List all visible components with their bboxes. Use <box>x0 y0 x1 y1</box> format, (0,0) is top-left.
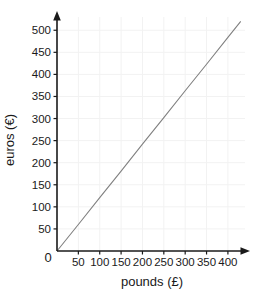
tick-label-y-50: 50 <box>38 223 51 235</box>
tick-label-x-100: 100 <box>90 256 109 268</box>
tick-label-x-200: 200 <box>133 256 152 268</box>
tick-label-y-350: 350 <box>32 90 51 102</box>
tick-label-x-150: 150 <box>111 256 130 268</box>
pounds-tick-labels: 50100150200250300350400 <box>72 256 238 268</box>
pounds-axis-arrowhead <box>241 247 251 255</box>
tick-label-y-200: 200 <box>32 157 51 169</box>
euros-axis-arrowhead <box>53 11 61 21</box>
tick-label-x-300: 300 <box>176 256 195 268</box>
tick-label-y-400: 400 <box>32 68 51 80</box>
euros-axis-title: euros (€) <box>2 114 17 166</box>
chart-canvas: 50100150200250300350400450500 5010015020… <box>0 0 258 297</box>
pounds-axis-title: pounds (£) <box>121 274 183 289</box>
origin-label: 0 <box>44 250 51 265</box>
tick-label-y-150: 150 <box>32 179 51 191</box>
tick-label-x-400: 400 <box>218 256 237 268</box>
euros-tick-labels: 50100150200250300350400450500 <box>32 24 51 235</box>
tick-label-y-500: 500 <box>32 24 51 36</box>
tick-label-x-350: 350 <box>197 256 216 268</box>
tick-label-y-450: 450 <box>32 46 51 58</box>
tick-label-x-50: 50 <box>72 256 85 268</box>
tick-label-y-250: 250 <box>32 135 51 147</box>
tick-label-x-250: 250 <box>154 256 173 268</box>
conversion-graph: 50100150200250300350400450500 5010015020… <box>0 0 258 297</box>
tick-label-y-100: 100 <box>32 201 51 213</box>
tick-label-y-300: 300 <box>32 113 51 125</box>
